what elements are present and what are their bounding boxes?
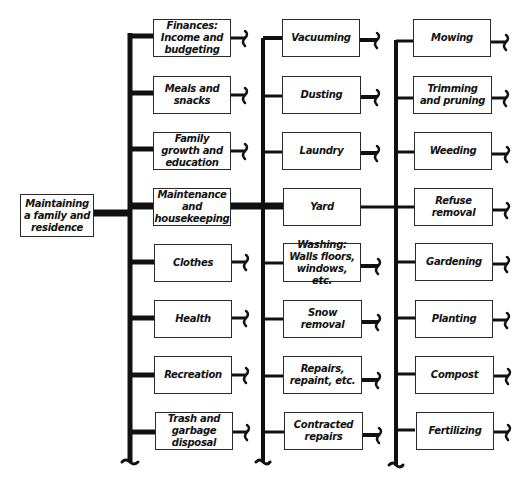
- node-label: Gardening: [426, 256, 482, 268]
- level2-node: Laundry: [282, 132, 361, 170]
- node-label: Clothes: [173, 257, 213, 269]
- node-label: Mowing: [431, 32, 473, 44]
- level2-node: Yard: [283, 188, 361, 226]
- root-node: Maintaining a family and residence: [20, 194, 94, 237]
- node-label: Family growth and education: [156, 133, 228, 169]
- node-label: Repairs, repaint, etc.: [286, 363, 359, 387]
- level1-node: Meals and snacks: [153, 76, 231, 114]
- level1-node: Health: [154, 300, 232, 338]
- level3-node: Planting: [415, 300, 493, 338]
- node-label: Weeding: [430, 145, 477, 157]
- level3-node: Gardening: [415, 243, 493, 281]
- level2-node: Vacuuming: [282, 19, 360, 57]
- node-label: Yard: [310, 201, 334, 213]
- level1-node: Maintenance and housekeeping: [153, 188, 231, 226]
- node-label: Vacuuming: [291, 32, 350, 44]
- node-label: Meals and snacks: [156, 83, 228, 107]
- level3-node: Compost: [415, 356, 494, 394]
- node-label: Dusting: [301, 89, 343, 101]
- node-label: Finances: Income and budgeting: [156, 20, 228, 56]
- level3-node: Trimming and pruning: [413, 76, 492, 114]
- root-label: Maintaining a family and residence: [23, 198, 91, 234]
- level1-node: Finances: Income and budgeting: [153, 19, 231, 57]
- level1-node: Clothes: [154, 244, 232, 282]
- node-label: Maintenance and housekeeping: [155, 189, 230, 225]
- level2-node: Dusting: [282, 76, 361, 114]
- node-label: Compost: [431, 369, 478, 381]
- level2-node: Contracted repairs: [284, 412, 363, 450]
- node-label: Trimming and pruning: [416, 83, 489, 107]
- node-label: Snow removal: [286, 307, 359, 331]
- level3-node: Fertilizing: [416, 412, 494, 450]
- level3-node: Refuse removal: [414, 188, 493, 226]
- level1-node: Family growth and education: [153, 132, 231, 170]
- node-label: Recreation: [164, 369, 222, 381]
- node-label: Washing: Walls floors, windows, etc.: [286, 239, 358, 287]
- level3-node: Weeding: [414, 132, 492, 170]
- node-label: Trash and garbage disposal: [158, 413, 230, 449]
- level2-node: Snow removal: [283, 300, 362, 338]
- node-label: Planting: [432, 313, 477, 325]
- node-label: Laundry: [300, 145, 344, 157]
- node-label: Fertilizing: [428, 425, 481, 437]
- level2-node: Repairs, repaint, etc.: [283, 356, 362, 394]
- node-label: Health: [175, 313, 210, 325]
- node-label: Refuse removal: [417, 195, 490, 219]
- level1-node: Trash and garbage disposal: [155, 412, 233, 450]
- level2-node: Washing: Walls floors, windows, etc.: [283, 243, 361, 282]
- level1-node: Recreation: [154, 356, 232, 394]
- level3-node: Mowing: [413, 19, 491, 57]
- node-label: Contracted repairs: [287, 419, 360, 443]
